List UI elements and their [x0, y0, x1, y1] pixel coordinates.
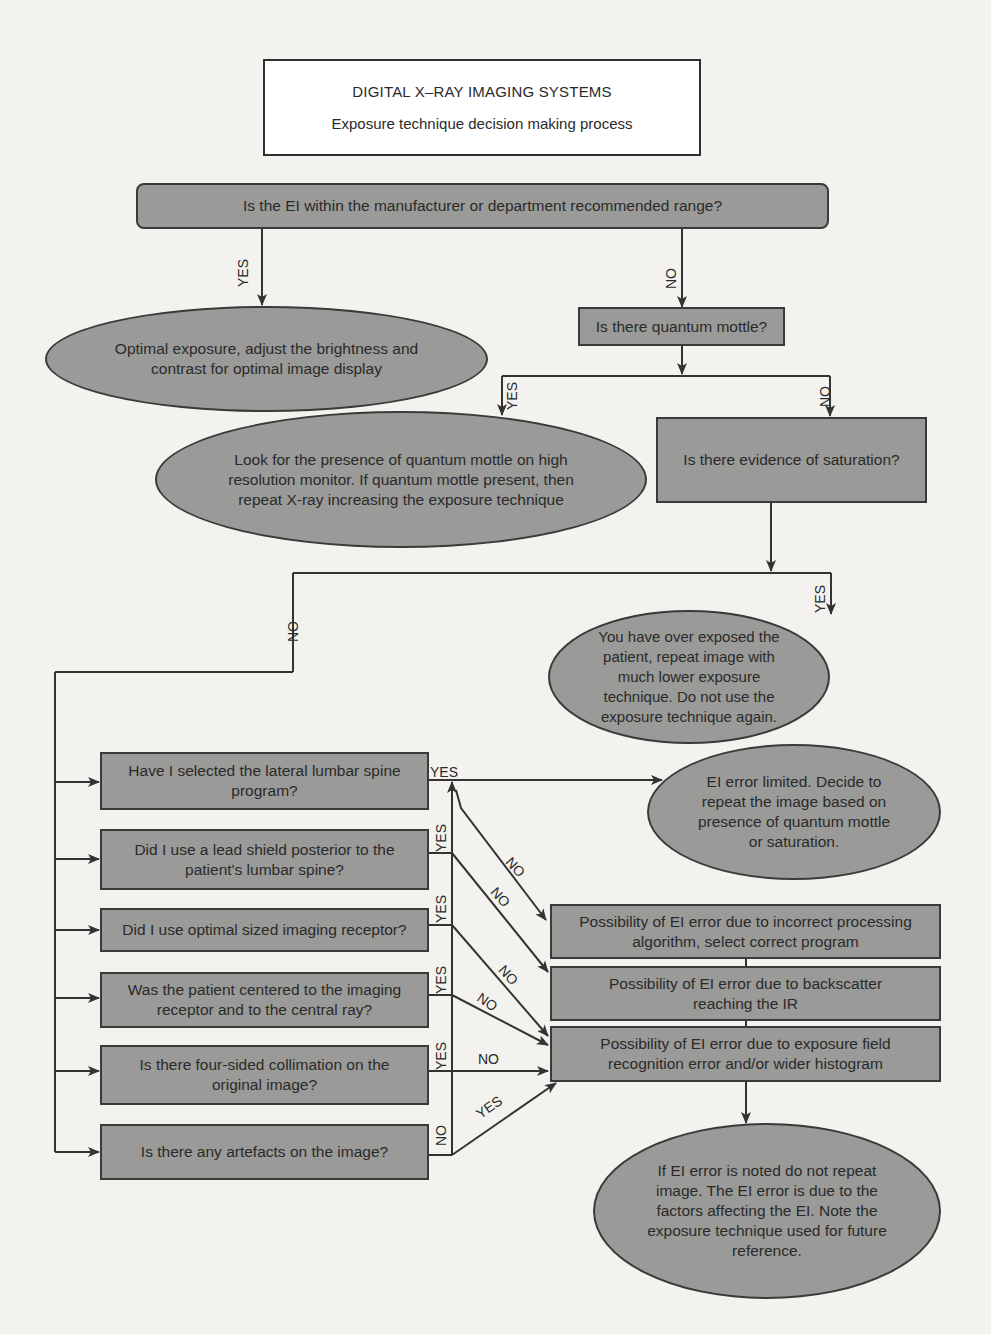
- edge-label-no-q6: NO: [434, 1125, 448, 1146]
- edge-label-no-mottle: NO: [818, 386, 832, 407]
- question-artefacts-text: Is there any artefacts on the image?: [141, 1142, 388, 1162]
- outcome-optimal-exposure: Optimal exposure, adjust the brightness …: [45, 306, 488, 412]
- outcome-look-for-mottle: Look for the presence of quantum mottle …: [155, 411, 647, 548]
- edge-label-yes-mottle: YES: [505, 382, 519, 410]
- error-exposure-field-text: Possibility of EI error due to exposure …: [572, 1034, 919, 1074]
- outcome-ei-error-limited: EI error limited. Decide to repeat the i…: [647, 744, 941, 880]
- edge-label-no-ei: NO: [664, 268, 678, 289]
- question-receptor-size-text: Did I use optimal sized imaging receptor…: [122, 920, 406, 940]
- title-box: DIGITAL X–RAY IMAGING SYSTEMS Exposure t…: [263, 59, 701, 156]
- question-receptor-size: Did I use optimal sized imaging receptor…: [100, 908, 429, 952]
- question-lumbar-program: Have I selected the lateral lumbar spine…: [100, 752, 429, 810]
- question-ei-range: Is the EI within the manufacturer or dep…: [136, 183, 829, 229]
- question-collimation-text: Is there four-sided collimation on the o…: [122, 1055, 407, 1095]
- question-lead-shield-text: Did I use a lead shield posterior to the…: [116, 840, 413, 880]
- question-saturation: Is there evidence of saturation?: [656, 417, 927, 503]
- outcome-look-for-mottle-text: Look for the presence of quantum mottle …: [227, 450, 575, 510]
- flowchart-canvas: DIGITAL X–RAY IMAGING SYSTEMS Exposure t…: [0, 0, 991, 1334]
- error-backscatter: Possibility of EI error due to backscatt…: [550, 966, 941, 1021]
- edge-label-yes-q4: YES: [434, 966, 448, 994]
- question-centered: Was the patient centered to the imaging …: [100, 972, 429, 1028]
- question-quantum-mottle-text: Is there quantum mottle?: [596, 317, 767, 337]
- question-saturation-text: Is there evidence of saturation?: [683, 450, 899, 470]
- edge-label-no-q5: NO: [478, 1052, 499, 1066]
- question-quantum-mottle: Is there quantum mottle?: [578, 307, 785, 346]
- edge-label-no-saturation: NO: [286, 621, 300, 642]
- diagram-subtitle: Exposure technique decision making proce…: [331, 114, 632, 134]
- edge-label-yes-q3: YES: [434, 895, 448, 923]
- outcome-ei-error-limited-text: EI error limited. Decide to repeat the i…: [689, 772, 899, 852]
- outcome-over-exposed-text: You have over exposed the patient, repea…: [584, 627, 794, 727]
- outcome-final-note: If EI error is noted do not repeat image…: [593, 1123, 941, 1299]
- question-centered-text: Was the patient centered to the imaging …: [112, 980, 417, 1020]
- outcome-over-exposed: You have over exposed the patient, repea…: [548, 610, 830, 744]
- edge-label-yes-q1: YES: [430, 765, 458, 779]
- edge-label-yes-ei: YES: [236, 259, 250, 287]
- error-processing-algorithm: Possibility of EI error due to incorrect…: [550, 904, 941, 959]
- question-artefacts: Is there any artefacts on the image?: [100, 1124, 429, 1180]
- question-collimation: Is there four-sided collimation on the o…: [100, 1045, 429, 1105]
- edge-label-yes-q2: YES: [434, 824, 448, 852]
- diagram-title: DIGITAL X–RAY IMAGING SYSTEMS: [352, 82, 611, 102]
- outcome-optimal-exposure-text: Optimal exposure, adjust the brightness …: [107, 339, 426, 379]
- question-lumbar-program-text: Have I selected the lateral lumbar spine…: [112, 761, 417, 801]
- edge-label-yes-q5: YES: [434, 1042, 448, 1070]
- question-lead-shield: Did I use a lead shield posterior to the…: [100, 829, 429, 890]
- error-processing-algorithm-text: Possibility of EI error due to incorrect…: [552, 912, 939, 952]
- question-ei-range-text: Is the EI within the manufacturer or dep…: [243, 196, 722, 216]
- edge-label-yes-saturation: YES: [813, 585, 827, 613]
- error-exposure-field: Possibility of EI error due to exposure …: [550, 1026, 941, 1082]
- error-backscatter-text: Possibility of EI error due to backscatt…: [582, 974, 909, 1014]
- outcome-final-note-text: If EI error is noted do not repeat image…: [645, 1161, 889, 1261]
